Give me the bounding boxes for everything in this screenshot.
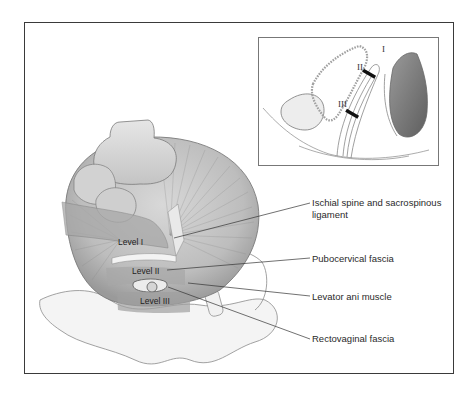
inset-level-3-label: III: [338, 99, 347, 109]
level-3-label: Level III: [140, 296, 170, 306]
annotation-ischial-spine-line1: Ischial spine and sacrospinous: [312, 197, 441, 209]
level-2-marker: [345, 109, 359, 119]
annotation-ischial-spine-line2: ligament: [312, 209, 441, 221]
urethra: [147, 282, 157, 292]
bladder: [281, 94, 324, 130]
inset-sagittal-diagram: I II III: [258, 37, 439, 166]
rectum: [390, 53, 428, 137]
level-1-label: Level I: [118, 237, 143, 247]
annotation-levator-ani: Levator ani muscle: [312, 291, 392, 303]
level-2-label: Level II: [132, 266, 159, 276]
annotation-rectovaginal-fascia: Rectovaginal fascia: [312, 333, 394, 345]
annotation-pubocervical-fascia: Pubocervical fascia: [312, 253, 394, 265]
inset-level-1-label: I: [382, 44, 385, 54]
inset-drawing: [259, 38, 440, 167]
inset-level-2-label: II: [357, 62, 363, 72]
annotation-ischial-spine: Ischial spine and sacrospinous ligament: [312, 197, 441, 221]
